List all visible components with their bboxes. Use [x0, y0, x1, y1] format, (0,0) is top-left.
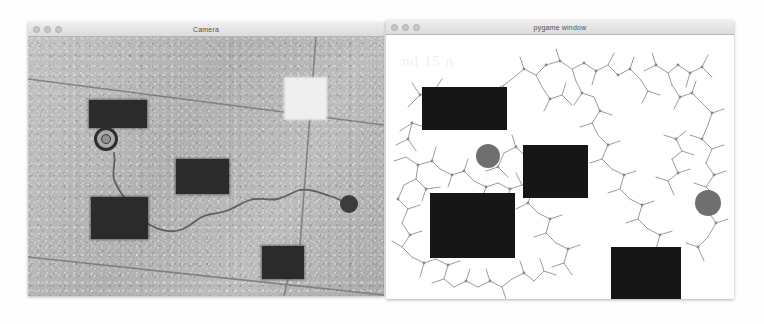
- camera-obstacle: [176, 159, 229, 194]
- traced-path: [113, 153, 347, 231]
- goal-marker: [340, 195, 358, 213]
- planner-obstacle: [422, 87, 507, 130]
- pygame-window-controls[interactable]: [391, 24, 420, 31]
- camera-window-controls[interactable]: [33, 26, 62, 33]
- goal-node-marker: [695, 190, 721, 216]
- planner-obstacle: [611, 247, 681, 299]
- zoom-icon[interactable]: [55, 26, 62, 33]
- planner-obstacle: [523, 145, 588, 198]
- camera-window-title: Camera: [28, 26, 384, 33]
- close-icon[interactable]: [391, 24, 398, 31]
- pygame-titlebar[interactable]: pygame window: [386, 20, 734, 35]
- camera-obstacle: [262, 246, 304, 279]
- screen: Camera: [0, 0, 764, 324]
- bright-square-marker: [284, 77, 327, 120]
- minimize-icon[interactable]: [44, 26, 51, 33]
- pygame-window-title: pygame window: [386, 24, 734, 31]
- camera-feed: [28, 37, 384, 296]
- planner-obstacle: [430, 193, 515, 258]
- camera-window[interactable]: Camera: [28, 22, 384, 296]
- close-icon[interactable]: [33, 26, 40, 33]
- camera-titlebar[interactable]: Camera: [28, 22, 384, 37]
- minimize-icon[interactable]: [402, 24, 409, 31]
- camera-obstacle: [89, 100, 147, 128]
- start-node-marker: [476, 144, 500, 168]
- zoom-icon[interactable]: [413, 24, 420, 31]
- rrt-canvas[interactable]: nd 15 n: [386, 35, 734, 299]
- pygame-window[interactable]: pygame window nd 15 n: [386, 20, 734, 299]
- camera-obstacle: [91, 197, 148, 239]
- robot-fiducial-marker: [94, 127, 118, 151]
